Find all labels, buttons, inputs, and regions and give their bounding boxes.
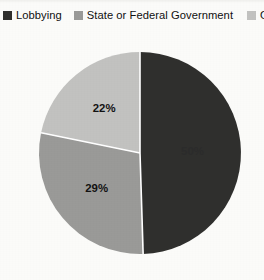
pie-slice-label-lobbying: 50% [181, 145, 204, 157]
square-swatch-icon [3, 11, 12, 20]
pie-slice-label-other: 22% [93, 102, 116, 114]
legend-item-label: Lobbying [16, 9, 62, 21]
pie-plot-area: 50% 29% 22% [0, 24, 264, 280]
page-top-edge [0, 0, 264, 3]
chart-legend: Lobbying State or Federal Government Oth… [0, 6, 264, 24]
square-swatch-icon [74, 11, 83, 20]
legend-item-label: State or Federal Government [87, 9, 233, 21]
pie-svg: 50% 29% 22% [0, 24, 264, 280]
legend-item-other[interactable]: Other [247, 6, 264, 24]
pie-chart-figure: Lobbying State or Federal Government Oth… [0, 0, 264, 280]
square-swatch-icon [247, 11, 256, 20]
legend-item-lobbying[interactable]: Lobbying [3, 6, 62, 24]
legend-item-label: Other [260, 9, 264, 21]
legend-item-state-or-federal-government[interactable]: State or Federal Government [74, 6, 233, 24]
pie-slice-label-state-or-federal-government: 29% [85, 182, 108, 194]
